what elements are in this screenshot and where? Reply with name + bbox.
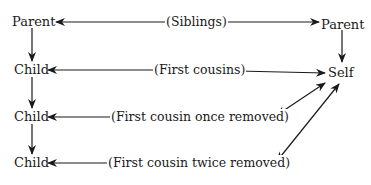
label-first-cousin-twice-removed: (First cousin twice removed) (107, 155, 291, 170)
label-first-cousin-once-removed: (First cousin once removed) (110, 109, 290, 124)
node-child-2: Child (14, 109, 49, 124)
first-cousins-arrow-right (237, 71, 325, 73)
label-first-cousins: (First cousins) (153, 62, 246, 77)
node-right-parent: Parent (321, 17, 364, 32)
node-child-1: Child (14, 62, 49, 77)
node-child-3: Child (14, 155, 49, 170)
node-left-parent: Parent (12, 14, 55, 29)
node-self: Self (328, 65, 354, 80)
label-siblings: (Siblings) (165, 14, 228, 29)
